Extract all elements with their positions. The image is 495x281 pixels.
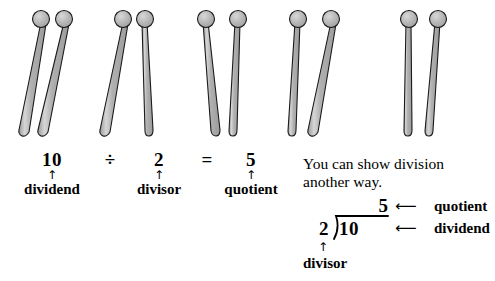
drumstick-4 [137,11,154,137]
equals-operator: = [202,150,213,170]
divisor-label: divisor [137,181,181,198]
quotient-label: quotient [224,181,277,198]
drumstick-group-3 [198,11,247,137]
drumstick-group-2 [100,11,154,137]
equals-symbol: = [202,150,213,170]
equation-quotient-term: 5 ↑ quotient [224,150,277,198]
drumstick-6 [229,11,247,137]
divisor-up-arrow: ↑ [137,170,181,181]
drumsticks-svg [0,0,495,145]
drumstick-7 [288,11,307,137]
quotient-callout-arrow: ⟵ [395,196,417,216]
explanation-line-2: another way. [303,173,495,191]
long-division-diagram: 5 2 10 ⟵ quotient ⟵ dividend ↑ divisor [303,196,495,281]
drumstick-8 [308,11,340,137]
divisor-value: 2 [137,150,181,170]
quotient-up-arrow: ↑ [224,170,277,181]
drumstick-group-4 [288,11,340,137]
drumstick-group-5 [401,11,447,137]
quotient-callout-label: quotient [434,196,487,216]
explanation-text: You can show division another way. [303,155,495,191]
long-division-quotient: 5 [344,196,388,216]
divide-operator: ÷ [105,150,115,170]
dividend-callout-arrow: ⟵ [395,218,417,238]
divisor-callout-arrow: ↑ [318,242,328,253]
drumstick-5 [198,11,221,137]
dividend-up-arrow: ↑ [24,170,80,181]
division-equation: 10 ↑ dividend ÷ 2 ↑ divisor = 5 ↑ quotie… [0,150,296,195]
drumstick-3 [100,11,132,137]
drumsticks-illustration [0,0,495,145]
equation-divisor-term: 2 ↑ divisor [137,150,181,198]
quotient-value: 5 [224,150,277,170]
divisor-callout-label: divisor [303,254,347,272]
dividend-label: dividend [24,181,80,198]
long-division-divisor: 2 [319,218,329,239]
drumstick-9 [401,11,418,137]
worksheet-page: 10 ↑ dividend ÷ 2 ↑ divisor = 5 ↑ quotie… [0,0,495,281]
dividend-callout-label: dividend [434,218,490,238]
long-division-dividend: 10 [339,218,359,239]
equation-dividend-term: 10 ↑ dividend [24,150,80,198]
divide-symbol: ÷ [105,150,115,170]
dividend-value: 10 [24,150,80,170]
drumstick-10 [425,11,447,137]
drumstick-group-1 [19,11,73,137]
explanation-line-1: You can show division [303,155,495,173]
